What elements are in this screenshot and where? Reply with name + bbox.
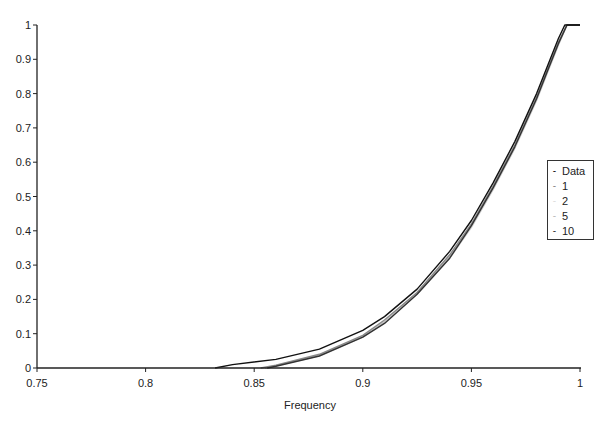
legend-item-1: - 1 [548, 178, 593, 193]
x-tick-label: 1 [577, 377, 583, 389]
legend-label: 1 [562, 180, 568, 192]
y-tick-label: 0.4 [16, 225, 31, 237]
x-axis-title: Frequency [284, 399, 336, 411]
series-line-1 [261, 25, 580, 368]
x-tick-label: 0.85 [243, 377, 264, 389]
y-tick-label: 0.2 [16, 293, 31, 305]
x-tick-label: 0.95 [461, 377, 482, 389]
x-tick-label: 0.75 [26, 377, 47, 389]
series-line-2 [265, 25, 580, 368]
y-tick-label: 0 [25, 362, 31, 374]
series-line-data [215, 25, 580, 368]
x-tick-label: 0.9 [355, 377, 370, 389]
legend-label: 5 [562, 210, 568, 222]
legend-label: Data [562, 165, 585, 177]
x-tick-label: 0.8 [138, 377, 153, 389]
legend: - Data - 1 - 2 - 5 - 10 [547, 160, 594, 240]
legend-line-icon: - [550, 195, 559, 206]
legend-label: 2 [562, 195, 568, 207]
legend-line-icon: - [550, 165, 559, 176]
y-tick-label: 0.9 [16, 53, 31, 65]
series-line-5 [265, 25, 580, 368]
legend-item-10: - 10 [548, 223, 593, 238]
y-tick-label: 0.7 [16, 122, 31, 134]
legend-item-2: - 2 [548, 193, 593, 208]
y-tick-label: 0.3 [16, 259, 31, 271]
y-tick-label: 0.8 [16, 88, 31, 100]
y-tick-label: 0.6 [16, 156, 31, 168]
y-tick-label: 0.5 [16, 191, 31, 203]
series-line-10 [267, 25, 580, 368]
legend-line-icon: - [550, 180, 559, 191]
y-tick-label: 1 [25, 19, 31, 31]
legend-item-5: - 5 [548, 208, 593, 223]
series-lines [215, 25, 580, 368]
y-axis-ticks: 00.10.20.30.40.50.60.70.80.91 [16, 19, 37, 374]
x-axis-ticks: 0.750.80.850.90.951 [26, 368, 583, 389]
legend-line-icon: - [550, 225, 559, 236]
legend-item-data: - Data [548, 163, 593, 178]
legend-label: 10 [562, 225, 574, 237]
cdf-chart: 00.10.20.30.40.50.60.70.80.91 0.750.80.8… [0, 0, 601, 423]
legend-line-icon: - [550, 210, 559, 221]
y-tick-label: 0.1 [16, 328, 31, 340]
